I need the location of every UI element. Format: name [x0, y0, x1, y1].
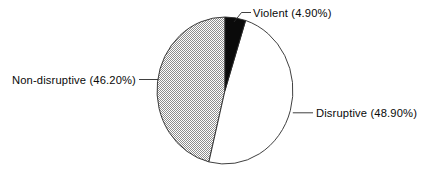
pie-label-non-disruptive: Non-disruptive (46.20%): [12, 74, 136, 86]
pie-label-violent: Violent (4.90%): [253, 7, 332, 19]
pie-label-disruptive: Disruptive (48.90%): [316, 107, 417, 119]
pie-chart-canvas: Violent (4.90%) Non-disruptive (46.20%) …: [0, 0, 431, 173]
pie-chart-figure: Violent (4.90%) Non-disruptive (46.20%) …: [0, 0, 431, 173]
